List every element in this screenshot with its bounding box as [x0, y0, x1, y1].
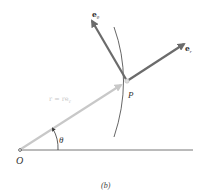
position-vector-r — [21, 85, 121, 149]
position-vector-label-main: r = re — [49, 95, 69, 103]
e-r-label: er — [185, 44, 192, 54]
position-vector-label-sub: r — [69, 99, 72, 104]
unit-vector-e-r — [127, 44, 184, 81]
e-theta-label-sub: θ — [97, 15, 100, 20]
figure-caption: (b) — [101, 181, 111, 190]
trajectory-curve — [114, 27, 124, 137]
origin-label: O — [16, 155, 23, 166]
point-p-marker — [125, 79, 129, 83]
angle-theta-label: θ — [59, 135, 64, 145]
e-theta-label: eθ — [92, 10, 100, 20]
position-vector-label: r = rer — [49, 95, 72, 104]
polar-coordinates-diagram: O P θ r = rer eθ er (b) — [0, 0, 214, 191]
e-r-label-sub: r — [190, 49, 192, 54]
angle-theta-arc — [53, 129, 58, 150]
unit-vector-e-theta — [92, 21, 127, 81]
point-p-label: P — [127, 90, 134, 100]
origin-marker — [19, 149, 22, 152]
